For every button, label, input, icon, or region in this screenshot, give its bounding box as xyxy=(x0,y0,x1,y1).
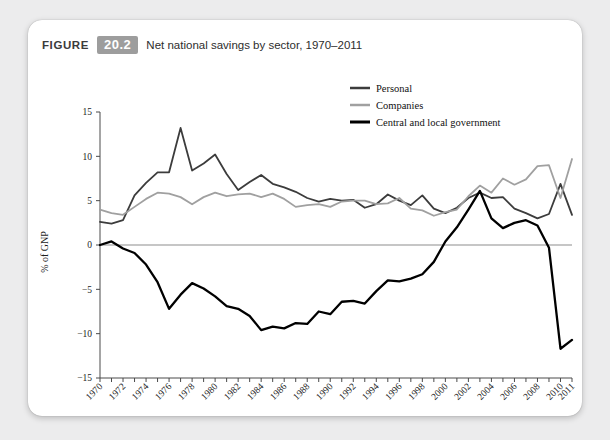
x-tick-label: 1998 xyxy=(406,381,427,402)
data-series-group xyxy=(100,128,572,349)
x-tick-label: 1996 xyxy=(383,381,404,402)
x-tick-label: 1994 xyxy=(360,381,381,402)
x-tick-label: 1988 xyxy=(291,381,312,402)
figure-caption: FIGURE 20.2 Net national savings by sect… xyxy=(42,36,362,54)
x-tick-label: 1970 xyxy=(84,381,105,402)
figure-label: FIGURE xyxy=(42,39,89,51)
x-tick-label: 1982 xyxy=(222,381,243,402)
x-tick-label: 1974 xyxy=(130,381,151,402)
figure-card: FIGURE 20.2 Net national savings by sect… xyxy=(28,20,582,416)
x-tick-label: 2000 xyxy=(429,381,450,402)
x-tick-label: 1978 xyxy=(176,381,197,402)
x-tick-label: 1972 xyxy=(107,381,128,402)
x-tick-label: 1990 xyxy=(314,381,335,402)
x-tick-label: 1984 xyxy=(245,381,266,402)
series-line-0 xyxy=(100,128,572,224)
x-tick-label: 2006 xyxy=(498,381,519,402)
y-tick-label: −10 xyxy=(77,329,92,339)
legend-label-0: Personal xyxy=(376,83,412,94)
x-tick-label: 1992 xyxy=(337,381,358,402)
x-tick-label: 2002 xyxy=(452,381,473,402)
y-axis: −15−10−5051015 xyxy=(77,107,100,383)
series-line-2 xyxy=(100,191,572,349)
x-tick-label: 1976 xyxy=(153,381,174,402)
legend-label-1: Companies xyxy=(376,100,423,111)
line-chart: −15−10−5051015 1970197219741976197819801… xyxy=(28,62,582,412)
figure-title: Net national savings by sector, 1970–201… xyxy=(146,39,362,51)
figure-number-badge: 20.2 xyxy=(97,36,138,54)
y-tick-label: 15 xyxy=(83,107,93,117)
y-tick-label: 10 xyxy=(83,152,93,162)
x-tick-label: 1986 xyxy=(268,381,289,402)
y-tick-label: 5 xyxy=(87,196,92,206)
legend-label-2: Central and local government xyxy=(376,117,501,128)
x-tick-label: 2008 xyxy=(521,381,542,402)
y-tick-label: −15 xyxy=(77,373,92,383)
chart-legend: PersonalCompaniesCentral and local gover… xyxy=(350,83,501,128)
x-tick-label: 1980 xyxy=(199,381,220,402)
chart-plot-area: −15−10−5051015 1970197219741976197819801… xyxy=(28,62,582,412)
y-tick-label: −5 xyxy=(82,285,92,295)
x-axis: 1970197219741976197819801982198419861988… xyxy=(84,378,577,402)
x-tick-label: 2004 xyxy=(475,381,496,402)
y-axis-title: % of GNP xyxy=(39,231,50,273)
y-tick-label: 0 xyxy=(87,240,92,250)
